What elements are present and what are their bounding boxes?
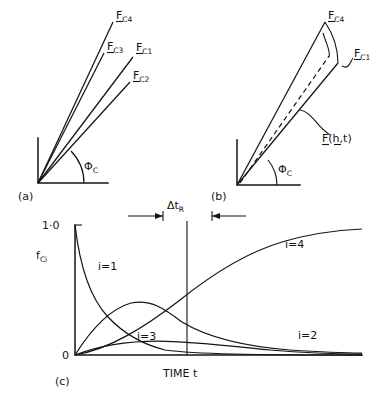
panel-b-ray-fc4 bbox=[237, 22, 325, 185]
panel-a-label-fc2: FC2 bbox=[133, 69, 150, 84]
panel-b: FC4 FC1 F(h,t) ΦC (b) bbox=[211, 9, 371, 203]
panel-c-xaxis-title: TIME t bbox=[162, 367, 198, 380]
panel-b-angle-label: ΦC bbox=[278, 163, 292, 178]
panel-b-label-fht: F(h,t) bbox=[322, 132, 352, 145]
panel-a-label-fc2-sub: C2 bbox=[139, 75, 149, 84]
panel-c-dim-arrow-left bbox=[155, 213, 163, 219]
panel-c-interval-label: ΔtR bbox=[167, 199, 184, 214]
panel-c-curve-i4 bbox=[75, 229, 362, 355]
panel-b-leader-fc1 bbox=[342, 58, 353, 67]
panel-c-curve-label-i3: i=3 bbox=[137, 330, 156, 343]
panel-b-label-fc4-sub: C4 bbox=[334, 15, 344, 24]
panel-c-curve-i2 bbox=[75, 302, 362, 355]
panel-c-interval-dimension bbox=[128, 211, 246, 221]
panel-c-interval-label-base: Δt bbox=[167, 199, 180, 212]
panel-b-leader-fc4 bbox=[323, 33, 330, 57]
panel-a-label-fc3: FC3 bbox=[107, 40, 124, 55]
panel-a-label: (a) bbox=[18, 190, 33, 203]
panel-b-label-fc1: FC1 bbox=[354, 47, 371, 62]
panel-a-angle-arc bbox=[71, 151, 84, 183]
panel-c-curve-i3 bbox=[75, 341, 362, 355]
panel-c-ylabel-zero: 0 bbox=[62, 349, 69, 362]
panel-a-label-fc1: FC1 bbox=[136, 41, 153, 56]
panel-b-label-fc4: FC4 bbox=[328, 9, 345, 24]
panel-c-curve-i1 bbox=[75, 225, 362, 355]
panel-c-axes bbox=[75, 225, 362, 355]
panel-a-ray-fc4 bbox=[38, 22, 113, 183]
panel-a: FC4 FC3 FC1 FC2 ΦC (a) bbox=[18, 9, 153, 203]
panel-c-interval-label-sub: R bbox=[179, 205, 184, 214]
panel-a-ray-fc3 bbox=[38, 53, 104, 183]
panel-c: 1·0 0 fCi TIME t ΔtR i=1 i=4 i=3 i=2 (c) bbox=[36, 199, 362, 388]
panel-b-label-fht-text: F(h,t) bbox=[322, 132, 352, 145]
panel-a-angle-sub: C bbox=[93, 166, 98, 175]
panel-b-wedge-cap bbox=[325, 22, 338, 63]
panel-c-dim-arrow-right bbox=[212, 213, 220, 219]
figure-svg: FC4 FC3 FC1 FC2 ΦC (a) bbox=[0, 0, 378, 398]
panel-c-yaxis-title-sub: Ci bbox=[40, 255, 47, 264]
figure-container: FC4 FC3 FC1 FC2 ΦC (a) bbox=[0, 0, 378, 398]
panel-b-angle-arc bbox=[268, 160, 277, 185]
panel-b-label-fc1-sub: C1 bbox=[360, 53, 370, 62]
panel-c-curve-label-i1: i=1 bbox=[98, 260, 117, 273]
panel-c-yaxis-title: fCi bbox=[36, 249, 47, 264]
panel-a-label-fc1-sub: C1 bbox=[142, 47, 152, 56]
panel-c-label: (c) bbox=[55, 375, 70, 388]
panel-b-angle-sub: C bbox=[287, 169, 292, 178]
panel-c-curve-label-i2: i=2 bbox=[298, 329, 317, 342]
panel-a-angle-symbol: Φ bbox=[84, 160, 93, 173]
panel-b-angle-symbol: Φ bbox=[278, 163, 287, 176]
panel-a-label-fc4-sub: C4 bbox=[122, 15, 132, 24]
panel-b-label: (b) bbox=[211, 190, 227, 203]
panel-c-ylabel-top: 1·0 bbox=[42, 219, 60, 232]
panel-a-label-fc4: FC4 bbox=[116, 9, 133, 24]
panel-a-label-fc3-sub: C3 bbox=[113, 46, 123, 55]
panel-a-angle-label: ΦC bbox=[84, 160, 98, 175]
panel-c-curve-label-i4: i=4 bbox=[285, 238, 304, 251]
